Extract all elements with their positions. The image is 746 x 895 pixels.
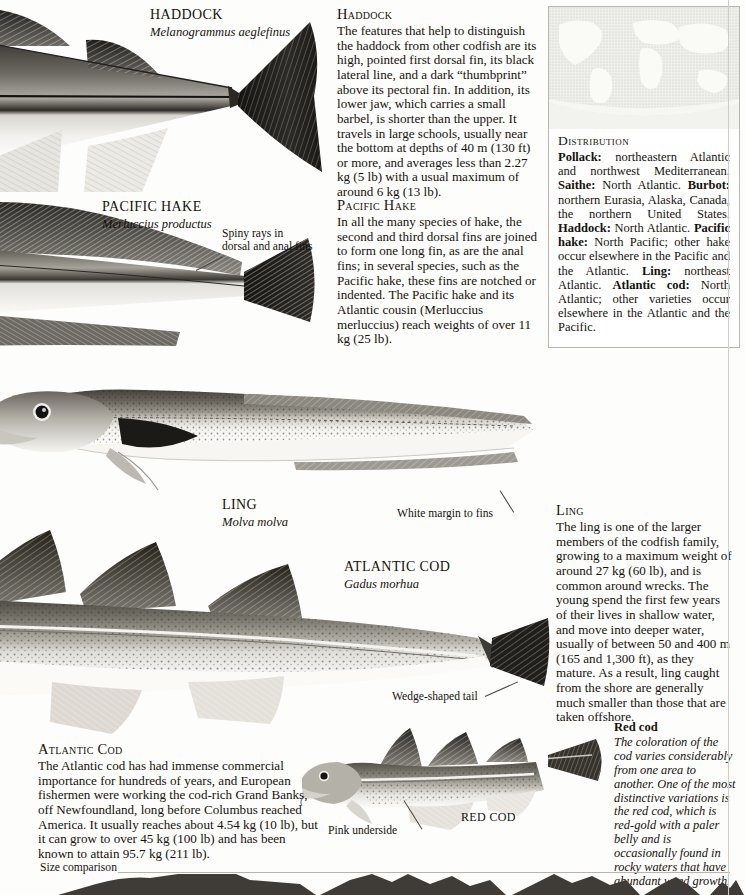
ling-article-body: The ling is one of the larger members of… bbox=[556, 520, 734, 725]
haddock-label-group: HADDOCK Melanogrammus aeglefinus bbox=[150, 8, 290, 40]
haddock-article-heading: Haddock bbox=[337, 7, 537, 22]
distribution-text: Distribution Pollack: northeastern Atlan… bbox=[558, 133, 730, 334]
encyclopedia-page: HADDOCK Melanogrammus aeglefinus bbox=[0, 0, 746, 895]
dist-range-burbot: northern Eurasia, Alaska, Canada, the no… bbox=[558, 193, 730, 221]
callout-wedge-tail: Wedge-shaped tail bbox=[392, 690, 478, 703]
haddock-scientific-name: Melanogrammus aeglefinus bbox=[150, 25, 290, 40]
pacific-hake-label-group: PACIFIC HAKE Merluccius productus bbox=[102, 200, 212, 232]
ling-common-name: LING bbox=[222, 498, 288, 513]
atlantic-cod-illustration bbox=[0, 520, 552, 740]
red-cod-common-name: RED COD bbox=[461, 810, 516, 825]
pacific-hake-scientific-name: Merluccius productus bbox=[102, 217, 212, 232]
dist-entry-haddock: Haddock: North Atlantic. bbox=[558, 221, 690, 235]
atlantic-cod-article-body: The Atlantic cod has had immense commerc… bbox=[38, 759, 324, 861]
callout-spiny-rays: Spiny rays in dorsal and anal fins bbox=[222, 227, 342, 253]
atlantic-cod-label-group: ATLANTIC COD Gadus morhua bbox=[344, 560, 450, 592]
dist-species-ling: Ling: bbox=[642, 264, 671, 278]
ling-illustration bbox=[0, 372, 542, 512]
red-cod-note-heading: Red cod bbox=[614, 720, 736, 735]
dist-species-saithe: Saithe: bbox=[558, 178, 596, 192]
distribution-entries: Pollack: northeastern Atlantic and north… bbox=[558, 150, 730, 334]
callout-spiny-rays-line1: Spiny rays in bbox=[222, 227, 342, 240]
atlantic-cod-common-name: ATLANTIC COD bbox=[344, 560, 450, 575]
pacific-hake-article-heading: Pacific Hake bbox=[337, 198, 537, 213]
atlantic-cod-article-heading: Atlantic Cod bbox=[38, 742, 324, 757]
dist-range-saithe: North Atlantic. bbox=[596, 178, 681, 192]
dist-entry-pollack: Pollack: northeastern Atlantic and north… bbox=[558, 150, 730, 178]
pacific-hake-common-name: PACIFIC HAKE bbox=[102, 200, 212, 215]
haddock-common-name: HADDOCK bbox=[150, 8, 290, 23]
pacific-hake-article-body: In all the many species of hake, the sec… bbox=[337, 215, 537, 347]
ling-article: Ling The ling is one of the larger membe… bbox=[556, 503, 734, 725]
atlantic-cod-article: Atlantic Cod The Atlantic cod has had im… bbox=[38, 742, 324, 862]
ling-article-heading: Ling bbox=[556, 503, 734, 518]
red-cod-tail-illustration bbox=[548, 737, 606, 785]
callout-pink-underside: Pink underside bbox=[328, 824, 397, 837]
distribution-title: Distribution bbox=[558, 133, 730, 149]
atlantic-cod-scientific-name: Gadus morhua bbox=[344, 577, 450, 592]
size-comparison-label: Size comparison bbox=[40, 861, 117, 874]
dist-entry-saithe: Saithe: North Atlantic. bbox=[558, 178, 681, 192]
dist-species-burbot: Burbot: bbox=[688, 178, 730, 192]
dist-species-atlantic-cod: Atlantic cod: bbox=[613, 278, 690, 292]
dist-range-haddock: North Atlantic. bbox=[611, 221, 690, 235]
distribution-panel: Distribution Pollack: northeastern Atlan… bbox=[548, 6, 740, 348]
dist-species-haddock: Haddock: bbox=[558, 221, 611, 235]
size-comparison-rule bbox=[118, 872, 730, 873]
haddock-article: Haddock The features that help to distin… bbox=[337, 7, 537, 200]
haddock-article-body: The features that help to distinguish th… bbox=[337, 24, 537, 200]
callout-spiny-rays-line2: dorsal and anal fins bbox=[222, 240, 342, 253]
world-map-graphic bbox=[549, 7, 739, 129]
red-cod-note: Red cod The coloration of the cod varies… bbox=[614, 720, 736, 889]
size-comparison-silhouettes bbox=[0, 874, 746, 895]
edge-rule bbox=[728, 0, 729, 895]
dist-species-pollack: Pollack: bbox=[558, 150, 602, 164]
red-cod-note-body: The coloration of the cod varies conside… bbox=[614, 736, 736, 889]
pacific-hake-article: Pacific Hake In all the many species of … bbox=[337, 198, 537, 347]
callout-white-margin: White margin to fins bbox=[397, 507, 493, 520]
